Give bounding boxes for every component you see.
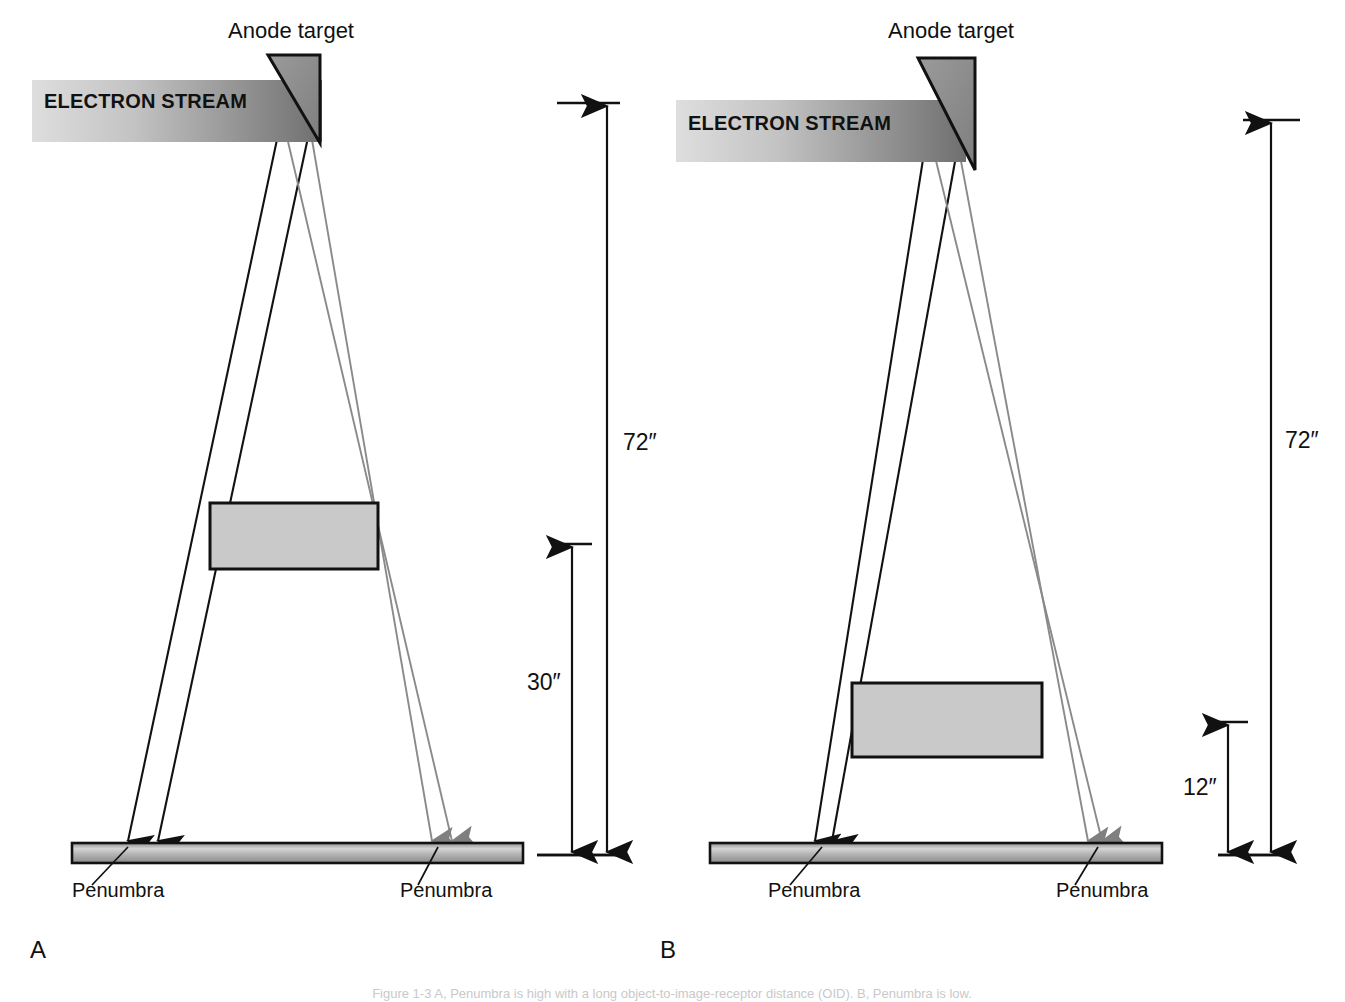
figure-canvas: ELECTRON STREAM Anode target PenumbraPen… bbox=[0, 0, 1345, 1002]
radiography-penumbra-diagram: ELECTRON STREAM Anode target PenumbraPen… bbox=[0, 0, 1345, 1002]
image-receptor-a bbox=[72, 843, 523, 863]
panel-a: ELECTRON STREAM Anode target PenumbraPen… bbox=[30, 18, 657, 963]
anode-target-label-a: Anode target bbox=[228, 18, 354, 43]
dimension-label-oid: 12″ bbox=[1183, 774, 1217, 800]
xray-beam-line bbox=[128, 116, 282, 841]
penumbra-label: Penumbra bbox=[768, 879, 861, 901]
electron-stream-label-a: ELECTRON STREAM bbox=[44, 90, 247, 112]
object-box-b bbox=[852, 683, 1042, 757]
panel-b: ELECTRON STREAM Anode target PenumbraPen… bbox=[660, 18, 1319, 963]
dimension-label-oid: 30″ bbox=[527, 669, 561, 695]
panel-label-a: A bbox=[30, 936, 46, 963]
xray-beam-line bbox=[282, 116, 452, 841]
figure-caption: Figure 1-3 A, Penumbra is high with a lo… bbox=[372, 986, 972, 1001]
penumbra-label: Penumbra bbox=[400, 879, 493, 901]
penumbra-label: Penumbra bbox=[1056, 879, 1149, 901]
panel-label-b: B bbox=[660, 936, 676, 963]
anode-target-label-b: Anode target bbox=[888, 18, 1014, 43]
dimension-label-sid: 72″ bbox=[1285, 427, 1319, 453]
xray-beam-line bbox=[158, 128, 310, 841]
xray-beam-line bbox=[310, 128, 432, 841]
panel-a-rays bbox=[128, 116, 452, 841]
dimension-label-sid: 72″ bbox=[623, 429, 657, 455]
dimension-lines-b: 72″12″ bbox=[1183, 120, 1319, 855]
dimension-lines-a: 72″30″ bbox=[527, 103, 657, 855]
electron-stream-label-b: ELECTRON STREAM bbox=[688, 112, 891, 134]
penumbra-label: Penumbra bbox=[72, 879, 165, 901]
object-box-a bbox=[210, 503, 378, 569]
